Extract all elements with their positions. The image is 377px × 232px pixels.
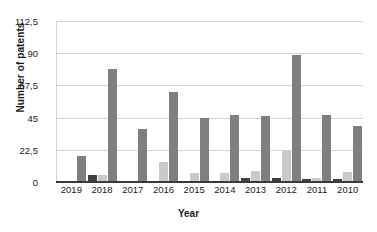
patents-bar-chart: Number of patents Year 022,54567,590112,… (0, 0, 377, 232)
x-axis-tick-label: 2010 (332, 184, 363, 195)
bar (282, 151, 291, 182)
bar-group (56, 21, 87, 182)
x-axis-tick-label: 2011 (302, 184, 333, 195)
x-axis-tick-label: 2013 (240, 184, 271, 195)
bar-groups (56, 21, 363, 182)
bar (77, 156, 86, 182)
bar-group (179, 21, 210, 182)
x-axis-tick-label: 2012 (271, 184, 302, 195)
bar-group (240, 21, 271, 182)
y-axis-tick-label: 90 (0, 48, 38, 59)
bar-group (302, 21, 333, 182)
bar-group (87, 21, 118, 182)
bar (159, 162, 168, 182)
x-axis-tick-label: 2019 (56, 184, 87, 195)
bar (261, 116, 270, 182)
y-axis-tick-label: 112,5 (0, 16, 38, 27)
bar-group (148, 21, 179, 182)
bar-group (210, 21, 241, 182)
bar (138, 129, 147, 182)
x-axis-tick-label: 2018 (87, 184, 118, 195)
bar (322, 115, 331, 182)
bar (230, 115, 239, 182)
y-axis-tick-label: 0 (0, 177, 38, 188)
bar-group (117, 21, 148, 182)
bar-group (271, 21, 302, 182)
bar (200, 118, 209, 182)
y-axis-tick-label: 67,5 (0, 80, 38, 91)
x-axis-tick-label: 2016 (148, 184, 179, 195)
bar (108, 69, 117, 182)
x-axis-tick-label: 2014 (210, 184, 241, 195)
plot-area: 022,54567,590112,5 (56, 21, 363, 182)
x-axis-tick-labels: 2019201820172016201520142013201220112010 (56, 184, 363, 195)
y-axis-tick-label: 22,5 (0, 144, 38, 155)
x-axis-title: Year (0, 208, 377, 219)
bar (169, 92, 178, 182)
bar (353, 126, 362, 182)
x-axis-tick-label: 2015 (179, 184, 210, 195)
x-axis-line (56, 181, 363, 183)
bar-group (332, 21, 363, 182)
y-axis-tick-label: 45 (0, 112, 38, 123)
x-axis-tick-label: 2017 (117, 184, 148, 195)
bar (292, 55, 301, 182)
